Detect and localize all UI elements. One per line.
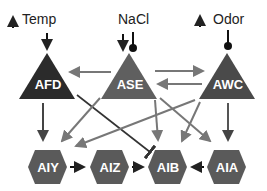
afd-label: AFD	[23, 77, 73, 92]
afd-node	[19, 53, 75, 99]
ase-to-aib-arrow	[155, 100, 158, 140]
aiy-label: AIY	[23, 160, 73, 175]
aiz-label: AIZ	[85, 160, 135, 175]
awc-to-aib-arrow	[182, 102, 200, 141]
odor-label: Odor	[213, 11, 244, 27]
aib-label: AIB	[143, 160, 193, 175]
ase-label: ASE	[105, 77, 155, 92]
odor-inhibit-dot-icon	[224, 42, 232, 50]
ase-node	[101, 53, 157, 99]
temp-label: Temp	[22, 11, 56, 27]
afd-to-aib-inhibit	[77, 95, 150, 152]
aia-label: AIA	[202, 160, 252, 175]
nacl-label: NaCl	[118, 11, 149, 27]
nacl-inhibit-dot-icon	[129, 44, 137, 52]
awc-label: AWC	[203, 77, 253, 92]
awc-node	[199, 53, 255, 99]
awc-to-aiy-arrow	[76, 100, 195, 146]
ase-to-aiy-arrow	[62, 98, 100, 141]
